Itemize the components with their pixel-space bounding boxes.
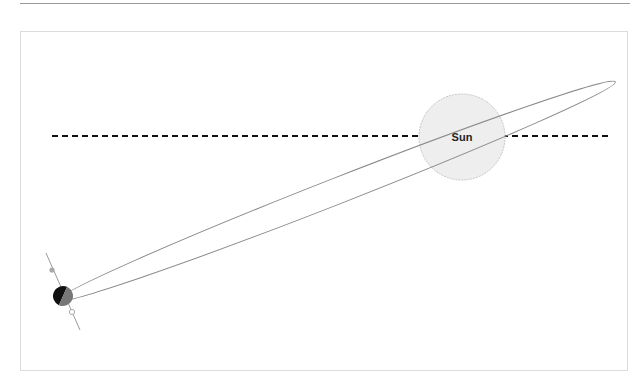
axis-lower-dot xyxy=(69,309,74,314)
axis-upper-dot xyxy=(49,267,54,272)
orbit-diagram: Sun xyxy=(0,0,644,386)
orbit-ellipse xyxy=(54,70,620,312)
planet-body xyxy=(50,283,76,309)
sun-label: Sun xyxy=(452,131,473,143)
